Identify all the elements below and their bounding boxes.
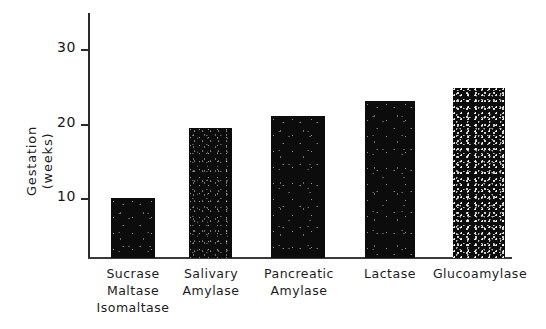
y-tick-label-10: 10 <box>57 188 76 204</box>
x-label-line: Pancreatic <box>251 265 347 282</box>
y-axis-title-line-2: (weeks) <box>40 126 56 196</box>
y-axis-title-line-1: Gestation <box>24 126 40 196</box>
x-label-lactase: Lactase <box>350 265 430 282</box>
x-label-glucoamylase: Glucoamylase <box>432 265 528 282</box>
bar-lactase <box>365 101 415 258</box>
x-label-line: Lactase <box>350 265 430 282</box>
x-label-sucrase-maltase-isomaltase: Sucrase Maltase Isomaltase <box>85 265 181 316</box>
x-label-pancreatic-amylase: Pancreatic Amylase <box>251 265 347 299</box>
x-label-line: Glucoamylase <box>432 265 528 282</box>
y-tick-20: 20 <box>81 124 89 126</box>
x-label-line: Salivary <box>168 265 254 282</box>
bar-pancreatic-amylase <box>271 116 325 258</box>
y-tick-label-20: 20 <box>57 114 76 130</box>
y-tick-10: 10 <box>81 198 89 200</box>
bar-sucrase-maltase-isomaltase <box>111 198 155 258</box>
x-label-line: Isomaltase <box>85 299 181 316</box>
y-tick-30: 30 <box>81 49 89 51</box>
bar-chart-figure: Gestation (weeks) 10 20 30 Sucrase Malta… <box>0 0 546 329</box>
plot-area: 10 20 30 <box>88 13 512 259</box>
x-label-line: Sucrase <box>85 265 181 282</box>
y-tick-label-30: 30 <box>57 39 76 55</box>
x-label-salivary-amylase: Salivary Amylase <box>168 265 254 299</box>
x-label-line: Amylase <box>251 282 347 299</box>
x-axis-category-labels: Sucrase Maltase Isomaltase Salivary Amyl… <box>88 265 512 327</box>
x-label-line: Amylase <box>168 282 254 299</box>
bar-salivary-amylase <box>189 128 232 258</box>
bar-glucoamylase <box>453 88 505 258</box>
x-label-line: Maltase <box>85 282 181 299</box>
